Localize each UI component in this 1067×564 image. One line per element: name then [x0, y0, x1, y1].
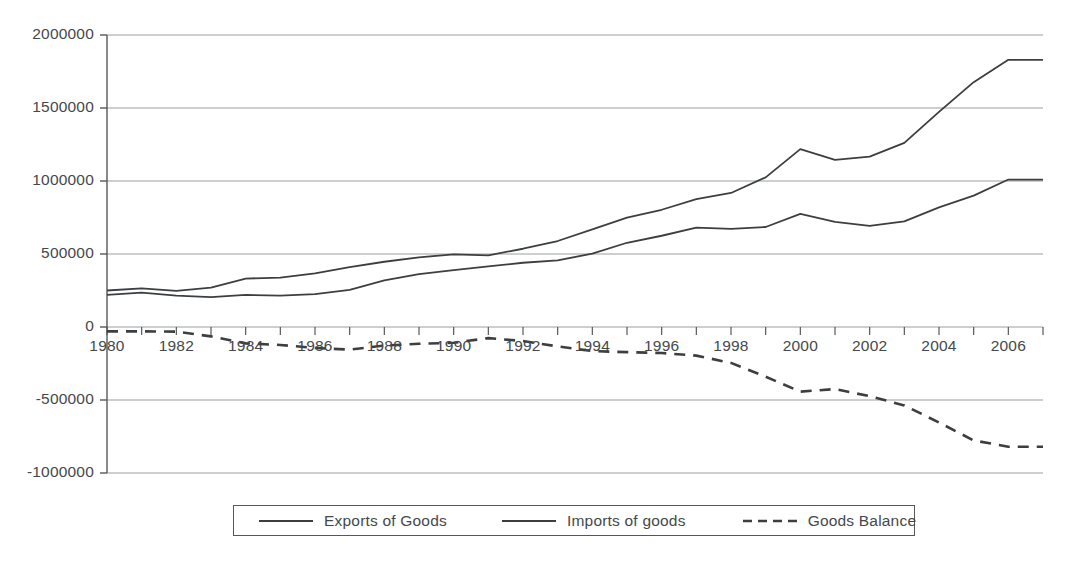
- legend-label: Imports of goods: [567, 512, 686, 530]
- line-chart-plot: [0, 0, 1067, 564]
- y-tick-label: 0: [0, 317, 94, 335]
- chart-container: 2000000150000010000005000000-500000-1000…: [0, 0, 1067, 564]
- x-axis-ticks: [107, 327, 1043, 335]
- y-tick-label: 1500000: [0, 98, 94, 116]
- x-tick-label: 1992: [488, 337, 558, 355]
- x-tick-label: 1994: [557, 337, 627, 355]
- x-tick-label: 1984: [211, 337, 281, 355]
- y-tick-label: 500000: [0, 244, 94, 262]
- x-tick-label: 2006: [973, 337, 1043, 355]
- x-tick-label: 1986: [280, 337, 350, 355]
- x-tick-label: 1990: [419, 337, 489, 355]
- y-tick-label: 2000000: [0, 25, 94, 43]
- data-series: [107, 60, 1043, 447]
- x-tick-label: 1998: [696, 337, 766, 355]
- x-tick-label: 2002: [835, 337, 905, 355]
- legend-entry: Goods Balance: [742, 512, 917, 530]
- legend-swatch-solid: [258, 514, 314, 528]
- x-tick-label: 1996: [627, 337, 697, 355]
- y-axis-ticks: [100, 35, 107, 473]
- legend-swatch-solid: [501, 514, 557, 528]
- y-tick-label: -500000: [0, 390, 94, 408]
- legend-entry: Exports of Goods: [258, 512, 447, 530]
- gridlines: [107, 35, 1043, 473]
- y-tick-label: -1000000: [0, 463, 94, 481]
- legend-entry: Imports of goods: [501, 512, 686, 530]
- legend-swatch-dashed: [742, 514, 798, 528]
- chart-legend: Exports of GoodsImports of goodsGoods Ba…: [233, 505, 915, 536]
- x-tick-label: 1982: [141, 337, 211, 355]
- x-tick-label: 1980: [72, 337, 142, 355]
- x-tick-label: 2004: [904, 337, 974, 355]
- x-tick-label: 2000: [765, 337, 835, 355]
- legend-label: Goods Balance: [808, 512, 917, 530]
- series-line-exports-of-goods: [107, 180, 1043, 298]
- legend-label: Exports of Goods: [324, 512, 447, 530]
- x-tick-label: 1988: [349, 337, 419, 355]
- y-tick-label: 1000000: [0, 171, 94, 189]
